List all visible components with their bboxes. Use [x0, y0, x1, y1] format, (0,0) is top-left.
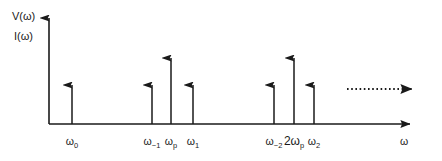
tick-label-w1-sub: 1: [195, 141, 199, 150]
x-axis-label-omega: ω: [400, 136, 408, 147]
tick-label-wm2-base: ω: [266, 135, 274, 147]
tick-label-wm2-sub: −2: [274, 141, 283, 150]
tick-label-w2-base: ω: [308, 135, 316, 147]
spectral-lines: [72, 58, 314, 124]
tick-label-wp-sub: p: [173, 141, 177, 150]
tick-label-wp-base: ω: [165, 135, 173, 147]
tick-label-w0: ω0: [66, 136, 78, 147]
tick-label-w0-base: ω: [66, 135, 74, 147]
tick-label-w1-base: ω: [187, 135, 195, 147]
tick-label-2wp-sub: p: [300, 141, 304, 150]
tick-label-w2: ω2: [308, 136, 320, 147]
tick-label-2wp-base: 2ω: [284, 134, 300, 148]
tick-label-w2-sub: 2: [316, 141, 320, 150]
tick-label-wm2: ω−2: [266, 136, 283, 147]
y-axis-label-voltage: V(ω): [12, 11, 35, 22]
tick-label-2wp: 2ωp: [284, 135, 304, 147]
tick-label-w0-sub: 0: [74, 141, 78, 150]
tick-label-wm1: ω−1: [144, 136, 161, 147]
tick-label-wm1-sub: −1: [152, 141, 161, 150]
y-axis-label-current: I(ω): [14, 31, 33, 42]
tick-label-wp: ωp: [165, 136, 177, 147]
tick-label-wm1-base: ω: [144, 135, 152, 147]
spectral-line-diagram: V(ω) I(ω) ω ω0 ω−1 ωp ω1 ω−2 2ωp ω2: [0, 0, 442, 161]
tick-label-w1: ω1: [187, 136, 199, 147]
